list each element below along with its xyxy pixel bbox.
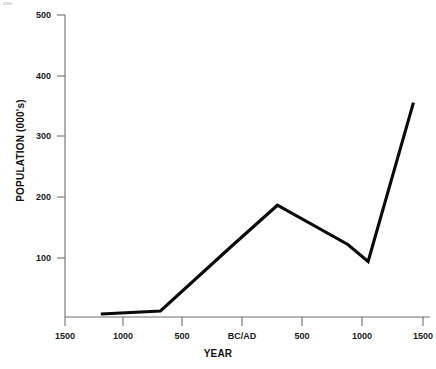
y-tick-label-200: 200 [26, 192, 51, 202]
y-axis-title: POPULATION (000's) [15, 71, 26, 231]
x-tick-label-500bc: 500 [174, 331, 189, 341]
y-tick-label-300: 300 [26, 131, 51, 141]
x-tick-label-bcad: BC/AD [228, 331, 257, 341]
population-data-line [101, 103, 414, 314]
y-tick-label-400: 400 [26, 71, 51, 81]
x-tick-label-500ad: 500 [294, 331, 309, 341]
population-line-chart: 500 400 300 200 100 1500 1000 500 BC/AD … [0, 0, 436, 369]
chart-plot-area [0, 0, 436, 369]
x-tick-label-1500bc: 1500 [55, 331, 75, 341]
y-tick-label-500: 500 [26, 10, 51, 20]
x-tick-label-1000bc: 1000 [113, 331, 133, 341]
y-tick-label-100: 100 [26, 253, 51, 263]
x-tick-label-1500ad: 1500 [413, 331, 433, 341]
x-axis-title: YEAR [0, 348, 436, 359]
x-tick-label-1000ad: 1000 [352, 331, 372, 341]
